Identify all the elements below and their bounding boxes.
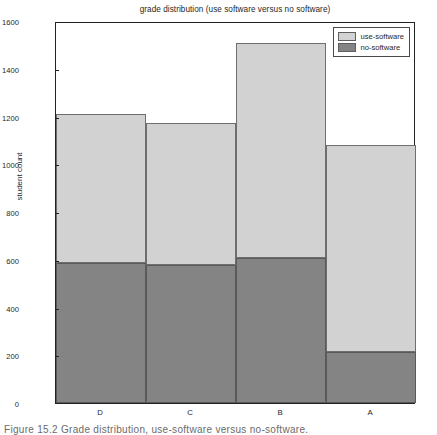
- figure-caption: Figure 15.2 Grade distribution, use-soft…: [4, 424, 434, 435]
- bar-segment-use-software[interactable]: [56, 114, 146, 263]
- y-tick-mark: [55, 213, 59, 214]
- y-tick-label: 200: [0, 352, 19, 361]
- y-tick-label: 1400: [0, 65, 19, 74]
- y-tick-label: 1000: [0, 161, 19, 170]
- bar-group[interactable]: [146, 21, 236, 403]
- y-tick-label: 1200: [0, 113, 19, 122]
- x-tick-label: C: [160, 408, 220, 417]
- y-tick-label: 800: [0, 209, 19, 218]
- bar-segment-no-software[interactable]: [56, 263, 146, 403]
- figure-container: grade distribution (use software versus …: [0, 0, 437, 435]
- bar-segment-no-software[interactable]: [146, 265, 236, 403]
- x-tick-label: A: [340, 408, 400, 417]
- bar-segment-use-software[interactable]: [146, 123, 236, 265]
- x-tick-label: D: [70, 408, 130, 417]
- y-tick-mark: [55, 70, 59, 71]
- y-tick-label: 0: [0, 400, 19, 409]
- y-tick-label: 400: [0, 304, 19, 313]
- bar-group[interactable]: [326, 21, 416, 403]
- bar-segment-use-software[interactable]: [236, 43, 326, 258]
- y-tick-mark: [55, 309, 59, 310]
- y-tick-mark: [55, 165, 59, 166]
- y-tick-mark: [55, 118, 59, 119]
- bar-group[interactable]: [56, 21, 146, 403]
- x-tick-label: B: [250, 408, 310, 417]
- bar-segment-use-software[interactable]: [326, 145, 416, 352]
- y-tick-mark: [55, 261, 59, 262]
- y-tick-label: 1600: [0, 18, 19, 27]
- plot-area: use-software no-software: [55, 22, 415, 404]
- y-tick-mark: [55, 356, 59, 357]
- bar-group[interactable]: [236, 21, 326, 403]
- bar-segment-no-software[interactable]: [236, 258, 326, 403]
- chart-title: grade distribution (use software versus …: [55, 5, 415, 15]
- y-tick-label: 600: [0, 256, 19, 265]
- bar-segment-no-software[interactable]: [326, 352, 416, 403]
